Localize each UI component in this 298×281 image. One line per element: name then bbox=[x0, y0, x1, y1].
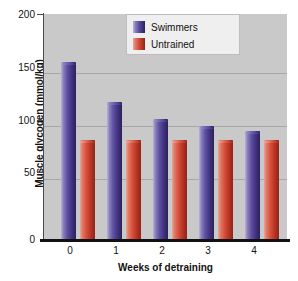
bar-cap bbox=[80, 140, 95, 143]
bar-untrained-week-3 bbox=[218, 140, 233, 239]
bar-swimmers-week-2 bbox=[153, 119, 168, 239]
gridline-150 bbox=[44, 73, 287, 74]
bar-untrained-week-2 bbox=[172, 140, 187, 239]
bar-swimmers-week-3 bbox=[199, 126, 214, 239]
y-tick-label-200: 200 bbox=[0, 9, 35, 20]
x-tick-label-0: 0 bbox=[55, 245, 85, 256]
swimmers-color-swatch bbox=[133, 21, 145, 33]
chart-figure: Muscle glycogen (mmol/kg) 200 150 100 50… bbox=[0, 0, 298, 281]
x-tick-label-3: 3 bbox=[193, 245, 223, 256]
bar-untrained-week-0 bbox=[80, 140, 95, 239]
bar-untrained-week-1 bbox=[126, 140, 141, 239]
legend-item-untrained: Untrained bbox=[133, 36, 239, 52]
x-axis-title: Weeks of detraining bbox=[44, 262, 287, 273]
x-axis-line bbox=[40, 239, 290, 242]
legend-item-swimmers: Swimmers bbox=[133, 19, 239, 35]
bar-cap bbox=[264, 140, 279, 143]
y-tick-label-150: 150 bbox=[0, 62, 35, 73]
bar-cap bbox=[61, 62, 76, 65]
bar-swimmers-week-1 bbox=[107, 102, 122, 239]
x-tick-label-1: 1 bbox=[101, 245, 131, 256]
legend-label-swimmers: Swimmers bbox=[151, 22, 198, 33]
chart-legend: Swimmers Untrained bbox=[126, 14, 240, 55]
bar-cap bbox=[126, 140, 141, 143]
bar-swimmers-week-4 bbox=[245, 131, 260, 239]
y-tick-label-0: 0 bbox=[0, 234, 35, 245]
bar-cap bbox=[107, 102, 122, 105]
bar-cap bbox=[153, 119, 168, 122]
x-tick-label-2: 2 bbox=[147, 245, 177, 256]
bar-untrained-week-4 bbox=[264, 140, 279, 239]
bar-cap bbox=[245, 131, 260, 134]
y-tick-label-100: 100 bbox=[0, 115, 35, 126]
untrained-color-swatch bbox=[133, 38, 145, 50]
bar-cap bbox=[172, 140, 187, 143]
y-tick-label-50: 50 bbox=[0, 167, 35, 178]
x-tick-label-4: 4 bbox=[239, 245, 269, 256]
bar-swimmers-week-0 bbox=[61, 62, 76, 239]
legend-label-untrained: Untrained bbox=[151, 39, 194, 50]
bar-cap bbox=[218, 140, 233, 143]
bar-cap bbox=[199, 126, 214, 129]
plot-area: Swimmers Untrained bbox=[44, 14, 287, 239]
